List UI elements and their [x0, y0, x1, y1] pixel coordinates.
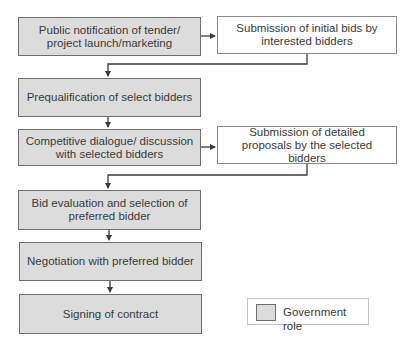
step-label: Submission of detailed proposals by the …: [224, 126, 390, 165]
legend-label: Government role: [283, 305, 368, 333]
step-prequalification: Prequalification of select bidders: [18, 78, 201, 117]
step-label: Submission of initial bids by interested…: [224, 22, 390, 48]
legend: Government role: [247, 298, 369, 325]
step-competitive-dialogue: Competitive dialogue/ discussion with se…: [18, 129, 201, 166]
step-label: Public notification of tender/ project l…: [25, 24, 194, 50]
step-label: Competitive dialogue/ discussion with se…: [25, 135, 194, 161]
step-initial-bids: Submission of initial bids by interested…: [217, 16, 397, 54]
step-public-notification: Public notification of tender/ project l…: [18, 17, 201, 56]
arrow-s5-s6: [108, 164, 307, 188]
step-detailed-proposals: Submission of detailed proposals by the …: [217, 126, 397, 164]
step-label: Bid evaluation and selection of preferre…: [25, 197, 194, 223]
step-label: Negotiation with preferred bidder: [27, 255, 194, 268]
step-label: Signing of contract: [63, 308, 158, 321]
step-signing-contract: Signing of contract: [19, 294, 202, 334]
arrow-s2-s3: [108, 54, 307, 76]
step-bid-evaluation: Bid evaluation and selection of preferre…: [18, 190, 201, 230]
legend-swatch-government: [256, 304, 276, 321]
step-label: Prequalification of select bidders: [27, 91, 193, 104]
step-negotiation: Negotiation with preferred bidder: [19, 242, 202, 281]
